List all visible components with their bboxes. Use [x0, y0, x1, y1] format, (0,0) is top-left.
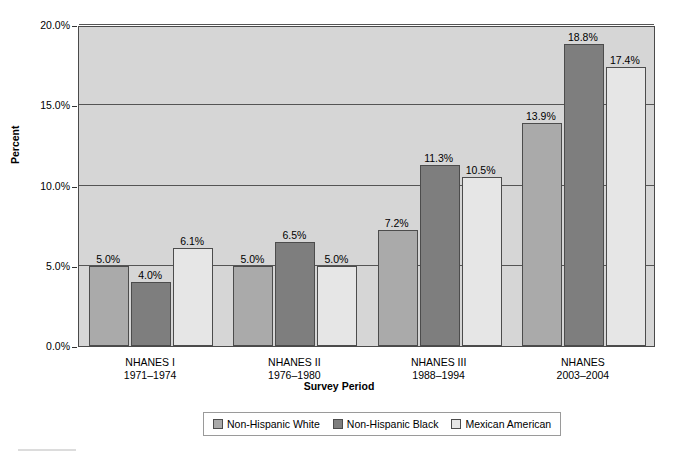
y-tick-mark	[72, 347, 77, 348]
legend-swatch-icon	[451, 419, 461, 429]
y-tick-mark	[72, 187, 77, 188]
footer-rule	[18, 449, 76, 451]
bar	[462, 177, 502, 346]
bar	[522, 123, 562, 346]
bar-value-label: 6.1%	[162, 235, 222, 247]
legend-label: Non-Hispanic White	[227, 418, 320, 430]
bar	[233, 266, 273, 346]
y-tick-label: 0.0%	[8, 341, 70, 352]
legend-label: Non-Hispanic Black	[347, 418, 439, 430]
bar-value-label: 7.2%	[367, 217, 427, 229]
x-group-label-line: NHANES II	[224, 356, 364, 369]
bar	[173, 248, 213, 346]
chart-legend: Non-Hispanic WhiteNon-Hispanic BlackMexi…	[203, 412, 561, 436]
x-group-label: NHANES III1988–1994	[369, 356, 509, 382]
bar-value-label: 5.0%	[306, 253, 366, 265]
legend-label: Mexican American	[465, 418, 551, 430]
y-tick-label: 10.0%	[8, 181, 70, 192]
bar-chart: Percent 0.0%5.0%10.0%15.0%20.0% 5.0%4.0%…	[0, 0, 678, 457]
bar-value-label: 4.0%	[120, 269, 180, 281]
y-tick-mark	[72, 106, 77, 107]
bar	[131, 282, 171, 346]
bar-value-label: 6.5%	[264, 229, 324, 241]
bar-value-label: 11.3%	[409, 152, 469, 164]
legend-item: Non-Hispanic Black	[333, 418, 439, 430]
bar	[378, 230, 418, 346]
bar-value-label: 5.0%	[222, 253, 282, 265]
gridline-20	[79, 24, 654, 25]
y-tick-label: 20.0%	[8, 20, 70, 31]
x-group-label-line: NHANES	[513, 356, 653, 369]
legend-item: Non-Hispanic White	[213, 418, 320, 430]
bar	[606, 67, 646, 346]
y-tick-mark	[72, 267, 77, 268]
bar	[420, 165, 460, 346]
bar-value-label: 5.0%	[78, 253, 138, 265]
legend-item: Mexican American	[451, 418, 551, 430]
plot-area	[78, 26, 655, 347]
x-axis-title: Survey Period	[0, 380, 678, 392]
bar	[564, 44, 604, 346]
x-group-label: NHANES2003–2004	[513, 356, 653, 382]
x-group-label-line: NHANES III	[369, 356, 509, 369]
bar-value-label: 17.4%	[595, 54, 655, 66]
y-tick-mark	[72, 26, 77, 27]
x-group-label-line: NHANES I	[80, 356, 220, 369]
y-axis-title: Percent	[9, 150, 21, 164]
y-tick-label: 15.0%	[8, 100, 70, 111]
bar-value-label: 10.5%	[451, 164, 511, 176]
bar-value-label: 13.9%	[511, 110, 571, 122]
bar-value-label: 18.8%	[553, 31, 613, 43]
legend-swatch-icon	[213, 419, 223, 429]
y-tick-label: 5.0%	[8, 261, 70, 272]
x-group-label: NHANES II1976–1980	[224, 356, 364, 382]
bar	[317, 266, 357, 346]
x-group-label: NHANES I1971–1974	[80, 356, 220, 382]
legend-swatch-icon	[333, 419, 343, 429]
